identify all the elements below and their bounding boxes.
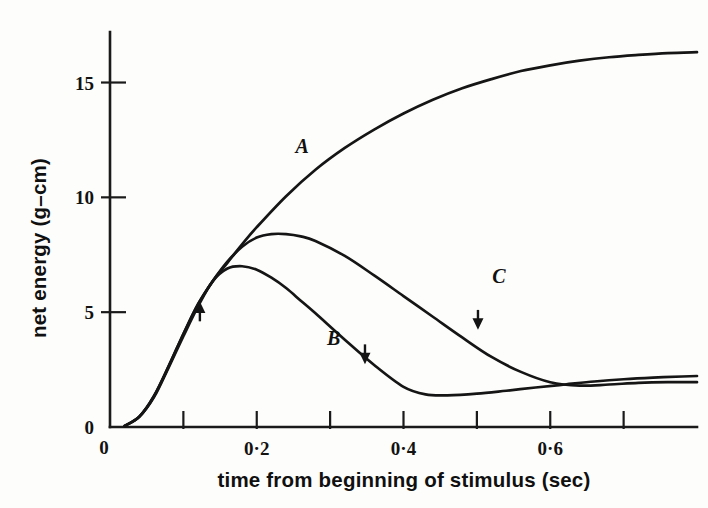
x-tick-label-0.6: 0·6 [538,438,563,459]
curve-label-c: C [492,265,506,287]
arrow-marker-1 [196,304,203,321]
x-tick-label-0.4: 0·4 [391,438,417,459]
curve-labels-group: ACB [294,135,507,350]
y-axis-ticks [101,83,126,313]
curve-c [125,234,697,426]
y-tick-label-15: 15 [75,73,94,94]
x-tick-label-0.2: 0·2 [244,438,269,459]
chart-figure: 051015 0·20·40·6 0 ACB time from beginni… [0,0,708,508]
axes-group [110,32,697,427]
curve-b [125,266,697,426]
x-axis-origin-label: 0 [99,437,109,458]
y-tick-label-5: 5 [85,302,95,323]
figure-page: 051015 0·20·40·6 0 ACB time from beginni… [0,0,708,508]
arrow-marker-3 [474,310,481,327]
curve-label-b: B [326,327,340,349]
y-axis-title: net energy (g–cm) [27,158,50,338]
curve-label-a: A [294,135,309,157]
y-axis-tick-labels: 051015 [75,73,94,438]
x-axis-title: time from beginning of stimulus (sec) [217,468,590,491]
y-tick-label-0: 0 [85,417,95,438]
arrow-marker-2 [361,344,368,361]
data-curves-group [125,52,697,426]
x-axis-tick-labels: 0·20·40·6 [244,438,563,459]
y-tick-label-10: 10 [75,187,94,208]
curve-a [125,52,697,426]
